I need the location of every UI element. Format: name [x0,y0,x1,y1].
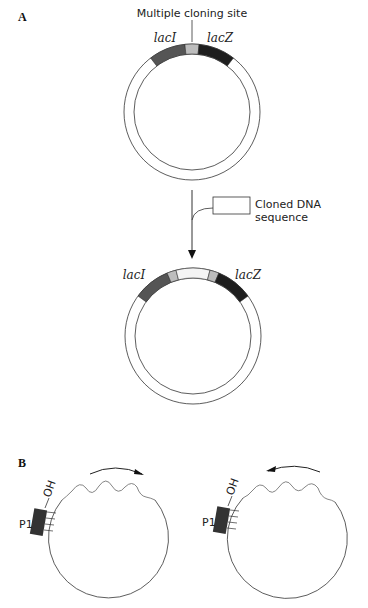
plasmid-recombinant [125,268,261,404]
pcr-circle-right: OH P1 [202,466,347,598]
insert-label-2: sequence [255,211,308,224]
laci-segment [151,44,186,66]
diagram-canvas: A Multiple cloning site lacI lacZ Cloned… [0,0,368,608]
p1-label-right: P1 [202,516,216,529]
arrow-head [188,250,196,259]
lacz-segment [198,44,233,66]
mcs-segment [185,44,199,54]
mcs-label: Multiple cloning site [137,7,248,20]
insert-segment [176,268,210,280]
insert-label-1: Cloned DNA [255,198,321,211]
insert-pointer [192,208,213,220]
pcr-circle-left: OH P1 [19,468,168,598]
lacz-label-bottom: lacZ [235,268,262,282]
lacz-label-top: lacZ [207,31,234,45]
insert-box [213,197,250,214]
oh-label-right: OH [224,477,242,497]
laci-label-top: lacI [154,31,177,45]
panel-a-label: A [18,10,27,24]
p1-label-left: P1 [19,518,33,531]
plasmid-vector [124,44,260,180]
laci-label-bottom: lacI [123,268,146,282]
oh-label-left: OH [41,479,59,499]
panel-b-label: B [18,456,26,470]
